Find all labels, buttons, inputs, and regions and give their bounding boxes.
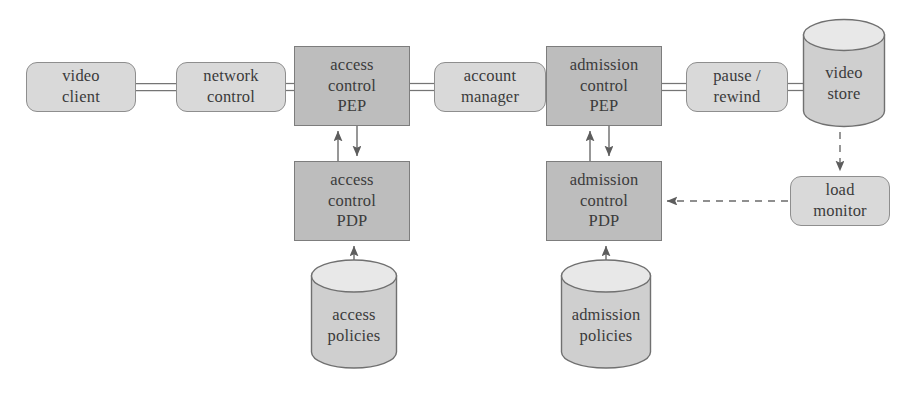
node-label-line: control xyxy=(207,87,255,108)
node-label-line: admission xyxy=(570,170,639,191)
node-label-line: network xyxy=(203,66,258,87)
node-label-line: access xyxy=(330,170,373,191)
node-label-line: load xyxy=(825,180,854,201)
node-access-control-pdp[interactable]: access control PDP xyxy=(294,161,410,241)
node-network-control[interactable]: network control xyxy=(176,62,286,112)
cylinder-shape xyxy=(802,18,886,128)
edge-network-control-access-control-pep xyxy=(286,84,294,91)
node-label-line: PEP xyxy=(589,96,618,117)
node-label-line: rewind xyxy=(713,87,760,108)
node-label-line: pause / xyxy=(713,66,761,87)
edge-access-control-pep-account-manager xyxy=(410,84,434,91)
node-label-line: manager xyxy=(461,87,519,108)
node-admission-control-pep[interactable]: admission control PEP xyxy=(546,46,662,126)
node-label-line: control xyxy=(328,76,376,97)
node-label-line: PDP xyxy=(337,211,368,232)
cylinder-shape xyxy=(560,258,652,370)
node-pause-rewind[interactable]: pause / rewind xyxy=(686,62,788,112)
node-access-control-pep[interactable]: access control PEP xyxy=(294,46,410,126)
cylinder-shape xyxy=(310,258,398,370)
node-access-policies[interactable]: access policies xyxy=(310,258,398,370)
node-label-line: admission xyxy=(570,55,639,76)
node-account-manager[interactable]: account manager xyxy=(434,62,546,112)
node-label-line: control xyxy=(580,76,628,97)
node-label-line: account xyxy=(464,66,517,87)
node-label-line: PDP xyxy=(589,211,620,232)
node-admission-control-pdp[interactable]: admission control PDP xyxy=(546,161,662,241)
node-label-line: control xyxy=(328,191,376,212)
edge-layer xyxy=(0,0,914,405)
edge-video-client-network-control xyxy=(136,84,176,91)
node-label-line: control xyxy=(580,191,628,212)
node-video-store[interactable]: video store xyxy=(802,18,886,128)
node-admission-policies[interactable]: admission policies xyxy=(560,258,652,370)
node-load-monitor[interactable]: load monitor xyxy=(790,176,890,226)
node-video-client[interactable]: video client xyxy=(26,62,136,112)
architecture-diagram: video client network control access cont… xyxy=(0,0,914,405)
node-label-line: access xyxy=(330,55,373,76)
edge-admission-control-pep-pause-rewind xyxy=(662,84,686,91)
node-label-line: client xyxy=(62,87,100,108)
node-label-line: monitor xyxy=(813,201,867,222)
node-label-line: PEP xyxy=(337,96,366,117)
node-label-line: video xyxy=(62,66,100,87)
